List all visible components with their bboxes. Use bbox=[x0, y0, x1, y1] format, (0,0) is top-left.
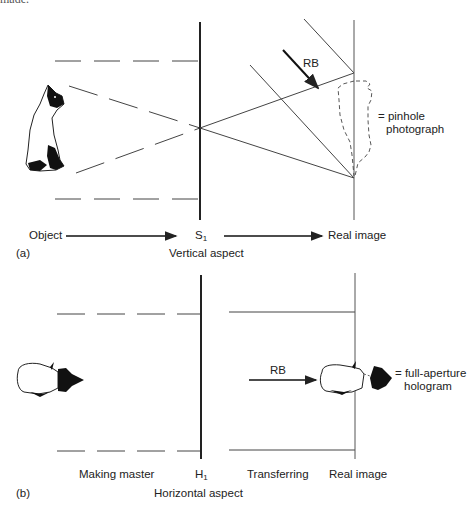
pinhole-note-line2: photograph bbox=[386, 123, 444, 136]
cat-side-view-icon bbox=[26, 85, 64, 171]
hologram-subscript: 1 bbox=[203, 473, 207, 482]
panel-b bbox=[17, 273, 392, 459]
object-label: Object bbox=[29, 229, 62, 242]
rb-label-a: RB bbox=[303, 57, 319, 70]
vertical-aspect-label: Vertical aspect bbox=[169, 247, 244, 260]
dashed-ray-down bbox=[69, 86, 200, 128]
slit-letter: S bbox=[195, 229, 203, 241]
panel-a bbox=[26, 19, 372, 236]
hologram-note-line2: hologram bbox=[404, 380, 452, 393]
slit-subscript: 1 bbox=[203, 234, 207, 243]
horizontal-aspect-label: Horizontal aspect bbox=[154, 487, 243, 500]
cat-top-view-icon bbox=[17, 362, 84, 397]
making-master-label: Making master bbox=[79, 468, 154, 481]
panel-b-tag: (b) bbox=[16, 487, 30, 500]
hologram-diagram: made. bbox=[0, 0, 471, 509]
slit-label: S1 bbox=[195, 229, 207, 245]
pinhole-photograph-outline bbox=[338, 81, 372, 176]
image-ray-up bbox=[200, 73, 354, 128]
cat-hologram-image-icon bbox=[320, 361, 392, 395]
rb-label-b: RB bbox=[270, 364, 286, 377]
pinhole-note-line1: = pinhole bbox=[378, 110, 425, 123]
panel-a-tag: (a) bbox=[16, 247, 30, 260]
real-image-label-b: Real image bbox=[329, 468, 387, 481]
hologram-label: H1 bbox=[195, 468, 208, 484]
hologram-note-line1: = full-aperture bbox=[395, 367, 466, 380]
real-image-label-a: Real image bbox=[328, 229, 386, 242]
transferring-label: Transferring bbox=[247, 468, 309, 481]
dashed-ray-up bbox=[76, 128, 200, 173]
